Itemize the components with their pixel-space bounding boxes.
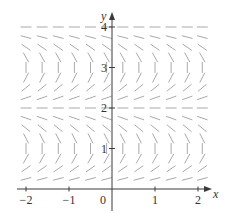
slope-segment	[198, 84, 206, 91]
slope-segments	[21, 27, 208, 180]
slope-segment	[151, 84, 159, 91]
x-axis-arrow-icon	[204, 186, 212, 192]
slope-segment	[54, 125, 63, 132]
slope-segment	[101, 96, 111, 100]
slope-segment	[53, 116, 63, 120]
slope-segment	[38, 44, 47, 50]
slope-segment	[120, 53, 125, 63]
slope-segment	[56, 134, 61, 144]
x-tick-label: −2	[20, 193, 33, 207]
slope-segment	[39, 53, 44, 63]
slope-segment	[183, 166, 192, 172]
slope-segment	[169, 134, 174, 144]
axes: −2−112 1234 x y 0	[17, 9, 219, 211]
slope-segment	[182, 36, 193, 39]
slope-segment	[102, 84, 111, 91]
slope-segment	[135, 84, 144, 91]
slope-segment	[88, 134, 93, 144]
slope-segment	[168, 154, 173, 164]
slope-segment	[40, 134, 45, 144]
slope-segment	[119, 84, 128, 91]
slope-segment	[185, 53, 190, 63]
slope-segment	[85, 36, 96, 39]
slope-segment	[72, 73, 77, 83]
slope-segment	[69, 96, 79, 100]
slope-segment	[153, 134, 158, 144]
slope-segment	[85, 96, 95, 100]
slope-segment	[167, 84, 176, 91]
slope-segment	[54, 84, 63, 91]
slope-segment	[134, 166, 143, 172]
slope-segment	[72, 154, 77, 164]
y-tick-label: 3	[101, 61, 107, 75]
origin-label: 0	[100, 193, 106, 207]
slope-segment	[39, 154, 44, 164]
slope-segment	[166, 96, 176, 100]
slope-segment	[37, 178, 48, 181]
slope-segment	[23, 154, 28, 164]
slope-segment	[198, 125, 206, 132]
slope-segment	[167, 166, 176, 172]
slope-segment	[120, 134, 125, 144]
slope-segment	[37, 36, 48, 39]
slope-segment	[200, 53, 205, 63]
slope-segment	[21, 116, 31, 120]
slope-segment	[136, 134, 141, 144]
slope-segment	[169, 73, 174, 83]
slope-segment	[37, 116, 47, 120]
y-tick-label: 1	[101, 142, 107, 156]
slope-segment	[200, 73, 205, 83]
slope-segment	[151, 166, 160, 172]
slope-segment	[72, 53, 77, 63]
slope-segment	[88, 154, 93, 164]
slope-segment	[197, 178, 208, 181]
slope-segment	[22, 84, 30, 91]
slope-segment	[118, 116, 128, 120]
slope-segment	[53, 36, 64, 39]
x-ticks: −2−112	[20, 187, 201, 208]
y-tick-label: 2	[101, 101, 107, 115]
slope-segment	[38, 166, 47, 172]
slope-segment	[88, 53, 93, 63]
slope-segment	[120, 154, 125, 164]
slope-segment	[70, 166, 79, 172]
slope-segment	[150, 36, 161, 39]
slope-segment	[86, 166, 95, 172]
x-tick-label: 1	[152, 193, 158, 207]
slope-segment	[166, 36, 177, 39]
slope-segment	[70, 125, 79, 132]
slope-segment	[38, 84, 47, 91]
slope-segment	[22, 44, 31, 50]
slope-segment	[198, 44, 207, 50]
slope-segment	[69, 36, 80, 39]
slope-segment	[54, 166, 63, 172]
slope-segment	[185, 73, 190, 83]
slope-segment	[24, 134, 29, 144]
slope-segment	[150, 116, 160, 120]
slope-field-plot: −2−112 1234 x y 0	[0, 0, 241, 217]
slope-segment	[120, 73, 125, 83]
slope-segment	[40, 73, 45, 83]
slope-segment	[70, 84, 79, 91]
slope-segment	[101, 116, 111, 120]
slope-segment	[151, 44, 160, 50]
slope-segment	[151, 125, 159, 132]
slope-segment	[197, 96, 207, 100]
slope-segment	[182, 116, 192, 120]
slope-segment	[136, 154, 141, 164]
slope-segment	[101, 36, 112, 39]
slope-segment	[150, 178, 161, 181]
slope-segment	[69, 116, 79, 120]
slope-field-figure: −2−112 1234 x y 0	[0, 0, 241, 217]
slope-segment	[134, 44, 143, 50]
slope-segment	[56, 53, 61, 63]
slope-segment	[134, 178, 145, 181]
slope-segment	[86, 84, 94, 91]
slope-segment	[167, 44, 176, 50]
x-tick-label: 2	[195, 193, 201, 207]
slope-segment	[21, 36, 32, 39]
slope-segment	[118, 166, 127, 172]
slope-segment	[69, 178, 80, 181]
slope-segment	[86, 125, 94, 132]
slope-segment	[166, 178, 177, 181]
